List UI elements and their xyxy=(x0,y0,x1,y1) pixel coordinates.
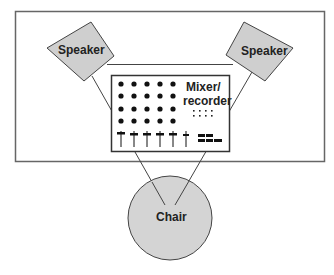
mixer-label-line2: recorder xyxy=(183,94,232,108)
chair-label: Chair xyxy=(156,210,187,224)
studio-layout-diagram xyxy=(0,0,334,275)
speaker-right-label: Speaker xyxy=(241,44,288,58)
speaker-left-label: Speaker xyxy=(58,43,105,57)
mixer-label-line1: Mixer/ xyxy=(186,80,221,94)
